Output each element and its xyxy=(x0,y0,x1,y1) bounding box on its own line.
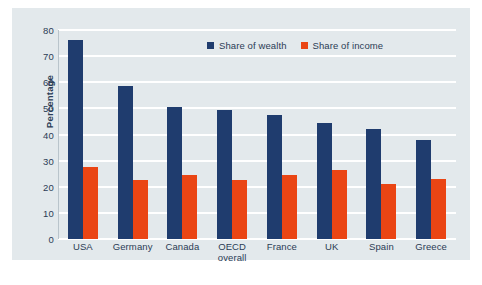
x-tick-label: Germany xyxy=(110,241,156,263)
x-tick-label: Spain xyxy=(358,241,404,263)
legend-label: Share of wealth xyxy=(219,40,287,51)
chart-panel: 01020304050607080 Percentage USAGermanyC… xyxy=(12,8,470,260)
x-tick-label: UK xyxy=(309,241,355,263)
bar-group[interactable] xyxy=(408,30,454,239)
bar-income[interactable] xyxy=(182,175,197,239)
legend-swatch-icon xyxy=(301,42,308,49)
bar-income[interactable] xyxy=(83,167,98,239)
bar-income[interactable] xyxy=(133,180,148,239)
bar-wealth[interactable] xyxy=(68,40,83,239)
y-tick-label: 20 xyxy=(43,181,54,192)
bar-income[interactable] xyxy=(431,179,446,239)
bar-wealth[interactable] xyxy=(217,110,232,239)
bar-income[interactable] xyxy=(381,184,396,239)
bar-wealth[interactable] xyxy=(267,115,282,239)
bar-income[interactable] xyxy=(282,175,297,239)
chart-legend: Share of wealthShare of income xyxy=(207,40,383,51)
y-tick-label: 80 xyxy=(43,25,54,36)
bar-group[interactable] xyxy=(209,30,255,239)
y-axis-title: Percentage xyxy=(44,57,55,147)
bar-wealth[interactable] xyxy=(416,140,431,239)
x-axis-labels: USAGermanyCanadaOECDoverallFranceUKSpain… xyxy=(58,241,456,263)
y-tick-label: 0 xyxy=(49,234,54,245)
y-tick-label: 30 xyxy=(43,155,54,166)
bar-income[interactable] xyxy=(332,170,347,239)
bar-wealth[interactable] xyxy=(317,123,332,239)
bar-income[interactable] xyxy=(232,180,247,239)
x-tick-label: France xyxy=(259,241,305,263)
legend-item[interactable]: Share of income xyxy=(301,40,384,51)
bar-group[interactable] xyxy=(358,30,404,239)
legend-label: Share of income xyxy=(313,40,384,51)
legend-item[interactable]: Share of wealth xyxy=(207,40,287,51)
y-tick-label: 10 xyxy=(43,207,54,218)
bar-wealth[interactable] xyxy=(366,129,381,239)
bar-group[interactable] xyxy=(60,30,106,239)
x-tick-label: OECDoverall xyxy=(209,241,255,263)
legend-swatch-icon xyxy=(207,42,214,49)
bars-layer xyxy=(58,30,456,239)
bar-wealth[interactable] xyxy=(167,107,182,239)
bar-wealth[interactable] xyxy=(118,86,133,239)
x-tick-label: Canada xyxy=(159,241,205,263)
bar-group[interactable] xyxy=(110,30,156,239)
bar-group[interactable] xyxy=(259,30,305,239)
x-tick-label: USA xyxy=(60,241,106,263)
figure-container: 01020304050607080 Percentage USAGermanyC… xyxy=(0,0,482,285)
x-tick-label: Greece xyxy=(408,241,454,263)
bar-group[interactable] xyxy=(309,30,355,239)
bar-group[interactable] xyxy=(159,30,205,239)
